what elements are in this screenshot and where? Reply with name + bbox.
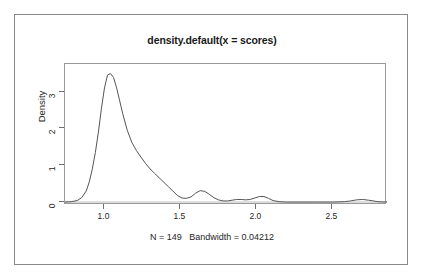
plot-subtitle: N = 149 Bandwidth = 0.04212 — [15, 232, 409, 242]
x-tick-label: 2.5 — [325, 211, 337, 221]
y-tick-label: 3 — [47, 93, 57, 98]
y-tick-label: 0 — [47, 204, 57, 209]
screenshot-root: density.default(x = scores) Density 0123… — [0, 0, 422, 279]
plot-panel — [64, 63, 386, 204]
x-tick-label: 2.0 — [249, 211, 261, 221]
density-line — [65, 74, 387, 202]
x-tick-mark — [331, 204, 332, 209]
y-axis: 0123 — [50, 63, 64, 204]
x-tick-mark — [255, 204, 256, 209]
x-tick-mark — [179, 204, 180, 209]
y-tick-label: 1 — [47, 167, 57, 172]
y-axis-label: Density — [36, 77, 47, 137]
x-tick-label: 1.5 — [174, 211, 186, 221]
x-axis: 1.01.52.02.5 — [64, 204, 386, 226]
plot-title: density.default(x = scores) — [15, 34, 409, 46]
density-curve-svg — [65, 64, 387, 205]
x-tick-mark — [103, 204, 104, 209]
y-tick-label: 2 — [47, 130, 57, 135]
figure-frame: density.default(x = scores) Density 0123… — [14, 14, 408, 265]
x-tick-label: 1.0 — [98, 211, 110, 221]
